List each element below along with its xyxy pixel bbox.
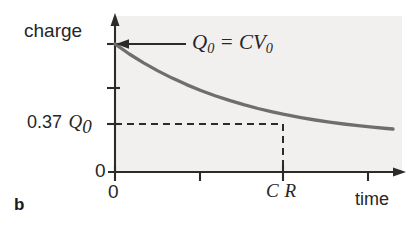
panel-label: b <box>14 196 24 213</box>
initial-charge-q-symbol: Q <box>192 30 207 54</box>
y-axis-origin-label: 0 <box>95 161 106 180</box>
initial-charge-voltage-subscript: 0 <box>266 40 273 56</box>
time-constant-label: C R <box>266 181 297 200</box>
initial-charge-capacitance-symbol: C <box>239 30 253 54</box>
time-constant-capacitance-symbol: C <box>266 180 280 201</box>
decay-level-coefficient: 0.37 <box>27 112 62 132</box>
figure-capacitor-discharge: charge time 0 0 0.37 Q0 C R Q0 = CV0 b <box>0 0 417 238</box>
x-axis-title: time <box>355 190 389 208</box>
y-axis-title: charge <box>24 21 82 40</box>
initial-charge-q-subscript: 0 <box>207 40 214 56</box>
time-constant-resistance-symbol: R <box>285 180 298 201</box>
initial-charge-equals-sign: = <box>220 30 234 54</box>
initial-charge-equation: Q0 = CV0 <box>192 32 273 53</box>
decay-level-label: 0.37 Q0 <box>27 112 92 131</box>
x-axis-origin-label: 0 <box>108 182 119 201</box>
decay-level-charge-symbol: Q <box>69 111 83 132</box>
initial-charge-voltage-symbol: V <box>253 30 266 54</box>
decay-level-charge-subscript: 0 <box>82 116 92 137</box>
